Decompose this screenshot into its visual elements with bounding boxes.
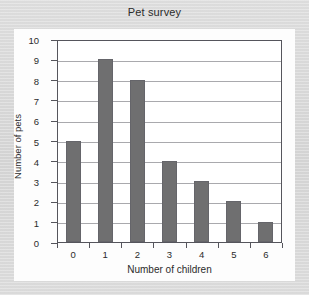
y-axis-tick-label: 8 (34, 75, 39, 86)
y-axis-tick-label: 10 (28, 35, 39, 46)
x-axis-tick-label: 0 (57, 249, 89, 263)
bar-slot (249, 41, 281, 242)
bar-slot (154, 41, 186, 242)
y-axis-tick-label: 5 (34, 136, 39, 147)
x-axis-tick-label: 1 (89, 249, 121, 263)
y-axis-tick-label: 7 (34, 95, 39, 106)
x-axis-tick-labels: 0123456 (57, 249, 282, 263)
x-axis-title: Number of children (57, 264, 282, 275)
bar[interactable] (162, 161, 177, 242)
chart-title: Pet survey (0, 6, 309, 18)
bar[interactable] (194, 181, 209, 242)
x-axis-tick (57, 243, 58, 248)
x-axis-tick (218, 243, 219, 248)
x-axis-tick (89, 243, 90, 248)
bar-slot (90, 41, 122, 242)
x-axis-tick (153, 243, 154, 248)
y-axis-tick-marks (40, 40, 57, 243)
x-axis-tick (121, 243, 122, 248)
bar[interactable] (258, 222, 273, 242)
y-axis-tick-labels: 012345678910 (20, 40, 39, 243)
x-axis-tick-label: 3 (153, 249, 185, 263)
bar-slot (122, 41, 154, 242)
x-axis-tick-label: 5 (218, 249, 250, 263)
x-axis-tick-label: 2 (121, 249, 153, 263)
x-axis-tick-label: 6 (250, 249, 282, 263)
x-axis-tick-label: 4 (186, 249, 218, 263)
x-axis-tick (186, 243, 187, 248)
bar[interactable] (226, 201, 241, 242)
y-axis-tick-label: 1 (34, 217, 39, 228)
y-axis-tick-label: 6 (34, 116, 39, 127)
y-axis-tick-label: 3 (34, 177, 39, 188)
y-axis-tick-label: 2 (34, 197, 39, 208)
bar[interactable] (98, 59, 113, 242)
y-axis-tick-label: 9 (34, 55, 39, 66)
y-axis-tick-label: 0 (34, 238, 39, 249)
bar-series (58, 41, 281, 242)
plot-area (57, 40, 282, 243)
bar-slot (217, 41, 249, 242)
bar[interactable] (66, 141, 81, 243)
bar-slot (185, 41, 217, 242)
bar[interactable] (130, 80, 145, 242)
bar-slot (58, 41, 90, 242)
x-axis-tick (282, 243, 283, 248)
x-axis-tick (250, 243, 251, 248)
y-axis-tick-label: 4 (34, 156, 39, 167)
